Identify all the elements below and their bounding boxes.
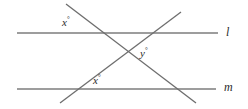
geometry-figure: x° y° x° l m bbox=[0, 0, 248, 109]
degree-symbol-y: ° bbox=[145, 46, 148, 54]
degree-symbol-x-top: ° bbox=[67, 15, 70, 23]
angle-label-x-bottom: x° bbox=[93, 74, 101, 86]
figure-canvas bbox=[0, 0, 248, 109]
line-label-m: m bbox=[224, 81, 233, 93]
degree-symbol-x-bottom: ° bbox=[98, 73, 101, 81]
angle-label-y: y° bbox=[140, 47, 148, 59]
line-label-l: l bbox=[226, 26, 229, 38]
angle-label-x-top: x° bbox=[62, 16, 70, 28]
transversal-descending bbox=[66, 4, 196, 103]
